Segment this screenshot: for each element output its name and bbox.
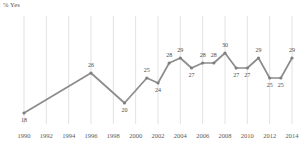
data-point-label: 29	[177, 47, 183, 53]
x-tick-label: 1996	[85, 132, 98, 139]
data-point-label: 25	[267, 82, 273, 88]
data-point-label: 30	[222, 42, 228, 48]
data-point	[290, 56, 293, 59]
data-point	[168, 61, 171, 64]
data-point	[246, 66, 249, 69]
x-tick-label: 1990	[18, 132, 31, 139]
x-tick-label: 1994	[62, 132, 75, 139]
chart-svg	[0, 14, 305, 124]
data-point-label: 26	[88, 62, 94, 68]
data-point	[22, 111, 25, 114]
x-tick-label: 2000	[129, 132, 142, 139]
data-point	[212, 61, 215, 64]
data-point	[89, 71, 92, 74]
data-point-label: 29	[256, 47, 262, 53]
x-tick-label: 2004	[174, 132, 187, 139]
data-point-label: 28	[211, 52, 217, 58]
data-point-label: 28	[200, 52, 206, 58]
data-point-label: 18	[21, 117, 27, 123]
data-point	[279, 76, 282, 79]
data-point-label: 24	[155, 87, 161, 93]
x-tick-label: 2014	[286, 132, 299, 139]
data-point	[145, 76, 148, 79]
line-chart: % Yes 1826202524282927282830272729252529…	[0, 0, 305, 150]
data-point-label: 28	[166, 52, 172, 58]
data-point-label: 29	[289, 47, 295, 53]
y-axis-title: % Yes	[3, 1, 20, 8]
x-tick-label: 2008	[219, 132, 232, 139]
x-axis: 1990199219941996199820002002200420062008…	[0, 132, 305, 146]
x-tick-label: 1992	[40, 132, 53, 139]
data-point-label: 20	[122, 107, 128, 113]
data-point	[179, 56, 182, 59]
data-point	[257, 56, 260, 59]
data-point	[123, 101, 126, 104]
x-tick-label: 2006	[196, 132, 209, 139]
x-tick-label: 2012	[263, 132, 276, 139]
data-point	[223, 51, 226, 54]
x-tick-label: 1998	[107, 132, 120, 139]
x-tick-label: 2010	[241, 132, 254, 139]
data-point	[190, 66, 193, 69]
data-point-label: 27	[244, 72, 250, 78]
data-point	[156, 81, 159, 84]
plot-area: 1826202524282927282830272729252529	[0, 14, 305, 124]
data-point	[201, 61, 204, 64]
data-point-label: 25	[144, 67, 150, 73]
data-point	[268, 76, 271, 79]
data-point-label: 25	[278, 82, 284, 88]
data-point-label: 27	[189, 72, 195, 78]
data-point-label: 27	[233, 72, 239, 78]
data-point	[235, 66, 238, 69]
x-tick-label: 2002	[152, 132, 165, 139]
